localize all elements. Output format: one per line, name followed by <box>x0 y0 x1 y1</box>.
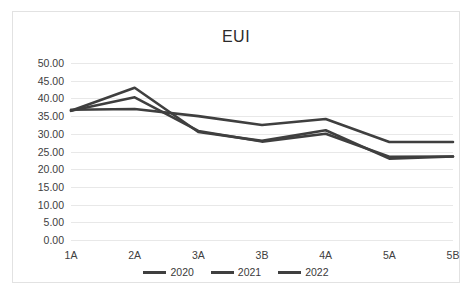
chart-container: EUI 0.005.0010.0015.0020.0025.0030.0035.… <box>12 11 460 283</box>
legend-item-2022[interactable]: 2022 <box>278 266 328 278</box>
series-line-2022 <box>71 109 453 142</box>
x-axis-tick-label: 2A <box>128 249 141 261</box>
x-axis-tick-label: 4A <box>319 249 332 261</box>
chart-legend: 202020212022 <box>13 266 459 278</box>
x-axis-tick-label: 5A <box>383 249 396 261</box>
legend-item-2021[interactable]: 2021 <box>211 266 261 278</box>
legend-swatch-icon <box>211 271 234 274</box>
y-axis-tick-label: 5.00 <box>18 216 64 228</box>
x-axis-tick-label: 3A <box>192 249 205 261</box>
y-axis-tick-label: 15.00 <box>18 181 64 193</box>
legend-swatch-icon <box>278 271 301 274</box>
legend-label: 2021 <box>238 266 261 278</box>
y-axis-tick-label: 45.00 <box>18 75 64 87</box>
legend-label: 2020 <box>170 266 193 278</box>
x-axis-tick-label: 3B <box>256 249 269 261</box>
y-axis-tick-label: 40.00 <box>18 92 64 104</box>
y-axis-tick-label: 10.00 <box>18 199 64 211</box>
y-axis-tick-label: 0.00 <box>18 234 64 246</box>
legend-label: 2022 <box>305 266 328 278</box>
gridline <box>71 240 453 241</box>
series-line-2021 <box>71 97 453 156</box>
x-axis-tick-label: 5B <box>447 249 460 261</box>
x-axis-tick-label: 1A <box>65 249 78 261</box>
y-axis-tick-label: 25.00 <box>18 146 64 158</box>
y-axis-tick-label: 35.00 <box>18 110 64 122</box>
y-axis-tick-label: 20.00 <box>18 163 64 175</box>
series-lines-group <box>71 63 453 240</box>
legend-swatch-icon <box>143 271 166 274</box>
y-axis-tick-label: 50.00 <box>18 57 64 69</box>
y-axis-tick-label: 30.00 <box>18 128 64 140</box>
chart-title: EUI <box>13 28 459 46</box>
plot-area: 0.005.0010.0015.0020.0025.0030.0035.0040… <box>71 63 453 240</box>
legend-item-2020[interactable]: 2020 <box>143 266 193 278</box>
